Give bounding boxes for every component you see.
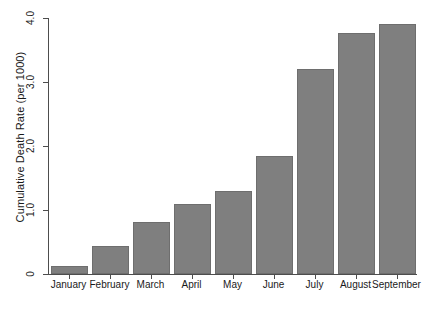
x-axis-labels: JanuaryFebruaryMarchAprilMayJuneJulyAugu… (48, 279, 417, 299)
y-tick-label: 2.0 (22, 137, 40, 155)
y-tick-label: 1.0 (22, 201, 40, 219)
y-tick-label-text: 1.0 (26, 203, 36, 217)
bar-february[interactable] (92, 246, 129, 274)
y-tick-label: 0 (22, 265, 40, 283)
y-tick-label-text: 3.0 (26, 75, 36, 89)
bar-september[interactable] (379, 24, 416, 274)
y-tick-label: 4.0 (22, 9, 40, 27)
bars-layer (48, 18, 417, 274)
y-tick-label: 3.0 (22, 73, 40, 91)
bar-chart-figure: Cumulative Death Rate (per 1000) 01.02.0… (0, 0, 422, 322)
bar-july[interactable] (297, 69, 334, 274)
bar-may[interactable] (215, 191, 252, 274)
bar-june[interactable] (256, 156, 293, 274)
y-tick-label-text: 4.0 (26, 11, 36, 25)
bar-august[interactable] (338, 33, 375, 274)
y-tick-label-text: 0 (26, 271, 36, 277)
bar-january[interactable] (51, 266, 88, 274)
y-tick-label-text: 2.0 (26, 139, 36, 153)
y-tick-mark (43, 274, 48, 275)
x-tick-label-september: September (370, 279, 422, 291)
bar-march[interactable] (133, 222, 170, 274)
bar-april[interactable] (174, 204, 211, 274)
